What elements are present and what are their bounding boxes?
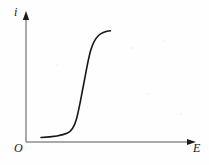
curve-group (41, 31, 111, 138)
polarization-curve (41, 31, 111, 138)
y-axis-arrowhead (23, 11, 29, 20)
plot-canvas (0, 0, 209, 165)
figure-container: i E O (0, 0, 209, 165)
origin-label: O (14, 142, 23, 154)
y-axis-label: i (14, 6, 17, 18)
x-axis-label: E (193, 142, 200, 154)
